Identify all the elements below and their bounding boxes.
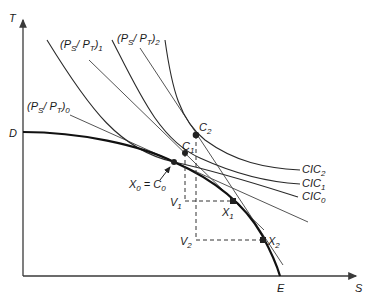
price-label-1: (PS/ PT)1: [60, 38, 103, 53]
cic-1-curve: [112, 40, 300, 184]
label-v2: V2: [180, 235, 192, 250]
label-v1: V1: [170, 196, 182, 211]
label-x1: X1: [221, 206, 234, 221]
label-e: E: [277, 282, 285, 294]
point-x0-c0: [171, 159, 177, 165]
point-x1: [230, 198, 236, 204]
ppf-curve: [23, 132, 280, 276]
cic-0-curve: [47, 40, 298, 197]
trade-diagram: T S D E (PS/ PT)0 (PS/ PT)1 (PS/ PT)2 CI…: [0, 0, 372, 301]
price-label-0: (PS/ PT)0: [27, 100, 70, 115]
pointer-arrow: [160, 167, 170, 180]
label-x0-c0: X0 = C0: [128, 178, 166, 193]
price-label-2: (PS/ PT)2: [117, 32, 160, 47]
point-x2: [260, 237, 266, 243]
label-c2: C2: [199, 121, 212, 136]
label-d: D: [9, 127, 17, 139]
cic-label-2: CIC2: [302, 163, 326, 178]
cic-label-0: CIC0: [302, 190, 326, 205]
x-axis-label: S: [355, 282, 363, 294]
y-axis-label: T: [9, 12, 17, 24]
